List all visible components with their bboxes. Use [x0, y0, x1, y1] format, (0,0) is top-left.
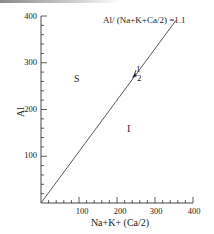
region-i-label: I: [127, 123, 130, 134]
x-ticks: [49, 197, 193, 203]
y-tick-300: 300: [24, 57, 37, 67]
x-axis-label: Na+K+ (Ca/2): [91, 217, 149, 229]
chart: 400 300 200 100 100 200 300 400 Na+K+ (C…: [0, 0, 214, 234]
y-tick-100: 100: [24, 150, 37, 160]
equation-label: Al/ (Na+K+Ca/2) =1.1: [103, 15, 185, 25]
axes: [41, 16, 193, 203]
region-s-label: S: [74, 73, 80, 84]
ratio-line: [41, 20, 176, 203]
y-axis-label: Al: [15, 107, 26, 117]
x-tick-400: 400: [188, 206, 201, 216]
y-tick-200: 200: [24, 104, 37, 114]
x-tick-300: 300: [150, 206, 163, 216]
marker-2-label: 2: [137, 73, 142, 83]
x-tick-200: 200: [114, 206, 127, 216]
y-tick-400: 400: [24, 11, 37, 21]
x-tick-100: 100: [76, 206, 89, 216]
y-ticks: [41, 16, 47, 194]
